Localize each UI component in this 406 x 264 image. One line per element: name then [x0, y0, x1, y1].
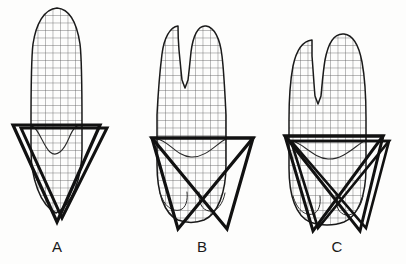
diagram-canvas: A B C [0, 0, 406, 264]
dental-form-diagram: A B C [0, 0, 406, 264]
panel-label-b: B [197, 238, 207, 255]
panel-label-c: C [332, 238, 343, 255]
panel-label-a: A [52, 238, 62, 255]
